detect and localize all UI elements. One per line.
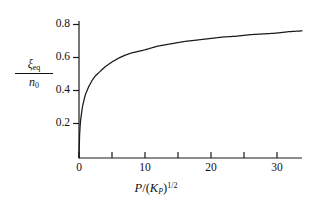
x-tick-label-1: 10 xyxy=(133,162,157,174)
plot-area xyxy=(0,0,312,208)
y-axis-label: ξeq n0 xyxy=(12,58,56,91)
y-tick-label-3: 0.2 xyxy=(40,117,70,129)
y-axis-label-denominator: n0 xyxy=(12,74,56,90)
x-tick-label-0: 0 xyxy=(69,162,89,174)
x-tick-marks xyxy=(79,152,277,158)
y-tick-label-0: 0.8 xyxy=(40,18,70,30)
x-label-k: K xyxy=(150,181,158,195)
y-axis-label-numerator: ξeq xyxy=(12,58,56,73)
x-tick-label-2: 20 xyxy=(199,162,223,174)
x-label-exponent: 1/2 xyxy=(167,181,177,190)
n-subscript: 0 xyxy=(35,81,39,90)
x-tick-label-3: 30 xyxy=(265,162,289,174)
y-tick-marks xyxy=(73,25,79,124)
xi-subscript: eq xyxy=(33,63,41,72)
x-axis-label: P/(KP)1/2 xyxy=(0,181,312,196)
data-curve-line xyxy=(79,31,302,158)
chart-figure: 0.8 0.6 0.4 0.2 0 10 20 30 ξeq n0 P/(KP)… xyxy=(0,0,312,208)
